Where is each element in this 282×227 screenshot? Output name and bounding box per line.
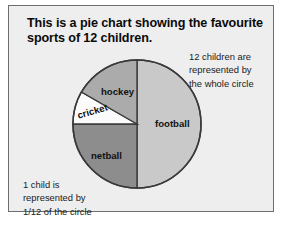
slice-label-netball: netball	[91, 150, 122, 161]
slice-label-football: football	[155, 118, 190, 129]
chart-panel: This is a pie chart showing the favourit…	[8, 5, 274, 212]
slice-label-hockey: hockey	[101, 86, 134, 97]
screenshot-root: This is a pie chart showing the favourit…	[0, 0, 282, 227]
page-title: This is a pie chart showing the favourit…	[27, 16, 275, 47]
